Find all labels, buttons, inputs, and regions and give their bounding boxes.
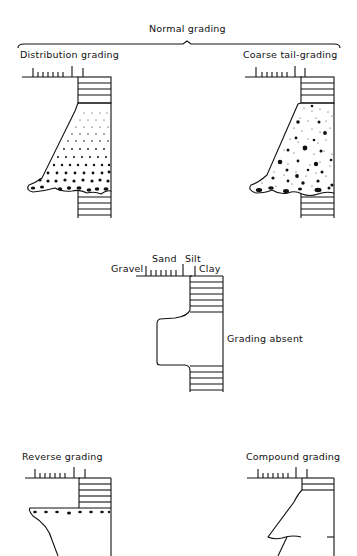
grain-scale-ruler xyxy=(136,264,195,276)
grading-diagram xyxy=(0,0,357,556)
panel-compound-grading xyxy=(247,467,334,556)
grain-scale-ruler xyxy=(245,66,305,77)
panel-coarse-tail-grading xyxy=(245,66,334,218)
grain-scale-ruler xyxy=(25,467,85,478)
normal-grading-brace xyxy=(18,41,340,48)
panel-distribution-grading xyxy=(22,66,111,218)
grain-scale-ruler xyxy=(22,66,83,77)
panel-grading-absent xyxy=(136,264,223,392)
coarse-grains-top xyxy=(33,511,110,515)
panel-reverse-grading xyxy=(25,467,111,556)
coarse-tail-grains xyxy=(256,105,334,193)
grain-scale-ruler xyxy=(247,467,307,478)
fine-grains xyxy=(31,113,111,192)
